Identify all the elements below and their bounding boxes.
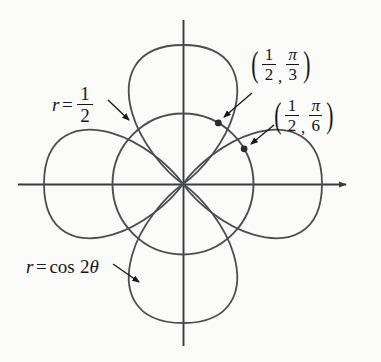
pi3-r-denominator: 2 [262,64,276,83]
pi3-theta-denominator: 3 [286,64,300,83]
rose-label-coefficient: 2 [80,257,90,276]
label-point-pi3: ( 1 2 , π 3 ) [249,46,313,83]
label-circle-equation: r = 1 2 [52,84,94,125]
rose-label-variable: θ [90,257,99,276]
rose-label-lhs: r [26,257,33,276]
pi6-theta-fraction: π 6 [309,97,323,134]
label-rose-equation: r = cos 2 θ [26,255,99,276]
polar-rose-figure: r = 1 2 r = cos 2 θ ( 1 2 , π [0,0,381,362]
intersection-point-pi6 [241,145,248,152]
leader-rose-label [113,264,139,282]
leader-point-pi3 [224,93,252,117]
circle-label-numerator: 1 [77,84,92,104]
pi3-open-paren: ( [251,51,258,78]
pi3-close-paren: ) [303,51,310,78]
pi3-comma: , [278,68,285,85]
circle-label-equals: = [59,95,75,114]
pi6-close-paren: ) [326,102,333,129]
pi3-r-numerator: 1 [262,46,276,64]
leader-point-pi6 [251,125,274,144]
pi3-r-fraction: 1 2 [262,46,276,83]
rose-label-function: cos [49,257,74,276]
pi6-theta-numerator: π [309,97,323,115]
figure-canvas [0,0,381,362]
pi6-theta-denominator: 6 [309,115,323,134]
pi6-open-paren: ( [274,102,281,129]
intersection-points-group [215,120,248,153]
pi6-r-fraction: 1 2 [285,97,299,134]
label-point-pi6: ( 1 2 , π 6 ) [272,97,336,134]
pi6-r-numerator: 1 [285,97,299,115]
circle-label-denominator: 2 [77,104,92,125]
pi6-r-denominator: 2 [285,115,299,134]
pi3-theta-fraction: π 3 [286,46,300,83]
circle-label-lhs: r [52,95,59,114]
intersection-point-pi3 [215,120,222,127]
pi6-comma: , [301,119,308,136]
circle-label-fraction: 1 2 [77,84,92,125]
pi3-theta-numerator: π [286,46,300,64]
leader-circle-label [108,100,129,120]
rose-label-equals: = [33,257,49,276]
